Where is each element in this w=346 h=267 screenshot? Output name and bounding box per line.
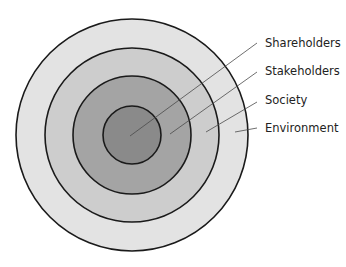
concentric-stakeholder-diagram: Shareholders Stakeholders Society Enviro…	[0, 0, 346, 267]
label-stakeholders: Stakeholders	[265, 64, 340, 78]
label-society: Society	[265, 93, 307, 107]
label-shareholders: Shareholders	[265, 36, 341, 50]
label-environment: Environment	[265, 121, 339, 135]
